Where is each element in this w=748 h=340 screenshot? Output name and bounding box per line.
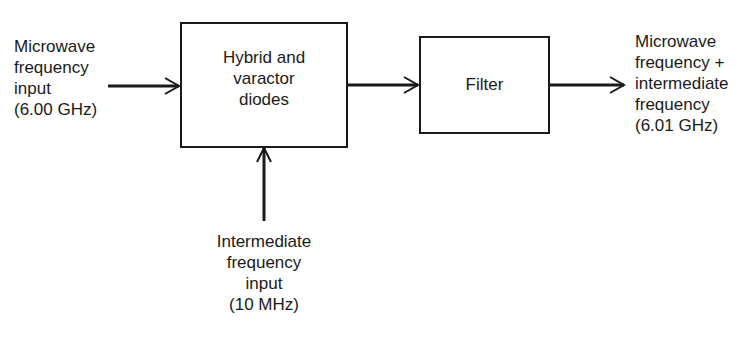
arrow-filter-to-output: [550, 77, 624, 93]
arrow-microwave-to-mixer: [108, 78, 179, 94]
intermediate-input-label: Intermediate frequency input (10 MHz): [204, 231, 324, 315]
filter-block-label: Filter: [466, 74, 504, 95]
block-diagram: Hybrid and varactor diodes Filter Microw…: [0, 0, 748, 340]
filter-block: Filter: [419, 36, 550, 134]
microwave-input-label: Microwave frequency input (6.00 GHz): [14, 36, 97, 120]
arrow-intermediate-to-mixer: [257, 148, 271, 221]
output-label: Microwave frequency + intermediate frequ…: [635, 31, 729, 136]
arrow-mixer-to-filter: [348, 77, 418, 93]
mixer-block-label: Hybrid and varactor diodes: [223, 47, 305, 110]
mixer-block: Hybrid and varactor diodes: [180, 22, 348, 148]
